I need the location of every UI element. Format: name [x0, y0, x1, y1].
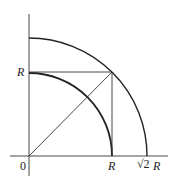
origin-label: 0	[20, 160, 26, 172]
x-axis-label-r: R	[108, 160, 115, 172]
y-axis-label-r: R	[17, 66, 24, 78]
quarter-circles-figure	[0, 0, 176, 183]
x-axis-label-sqrt2-r: R	[153, 160, 160, 172]
x-axis-label-sqrt2: √2	[137, 158, 150, 170]
diagram: R 0 R √2 R	[0, 0, 176, 183]
